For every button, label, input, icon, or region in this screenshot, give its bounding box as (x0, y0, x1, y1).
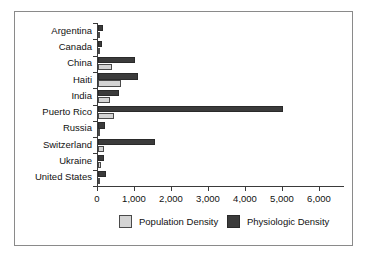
category-label-argentina: Argentina (51, 26, 92, 36)
x-axis-tick-label: 0 (94, 193, 99, 204)
bar-physiologic-density-argentina (98, 25, 103, 31)
y-axis-tick (93, 105, 97, 106)
y-axis-tick (93, 121, 97, 122)
category-label-russia: Russia (63, 123, 92, 133)
y-axis-tick (93, 137, 97, 138)
chart-figure: 01,0002,0003,0004,0005,0006,000Argentina… (14, 11, 353, 246)
bar-population-density-argentina (98, 32, 100, 38)
legend-label: Population Density (139, 216, 218, 227)
bar-population-density-ukraine (98, 162, 101, 168)
bar-population-density-russia (98, 129, 100, 135)
legend-label: Physiologic Density (247, 216, 329, 227)
category-label-india: India (71, 91, 92, 101)
category-label-canada: Canada (59, 42, 92, 52)
y-axis-tick (93, 23, 97, 24)
y-axis-tick (93, 72, 97, 73)
bar-physiologic-density-ukraine (98, 155, 104, 161)
x-axis-tick-label: 4,000 (233, 193, 257, 204)
category-label-haiti: Haiti (73, 75, 92, 85)
y-axis-tick (93, 153, 97, 154)
x-axis-tick (208, 187, 209, 191)
x-axis-tick (245, 187, 246, 191)
x-axis-tick-label: 6,000 (307, 193, 331, 204)
x-axis-tick-label: 5,000 (270, 193, 294, 204)
bar-physiologic-density-china (98, 57, 135, 63)
x-axis-tick-label: 3,000 (196, 193, 220, 204)
bar-population-density-switzerland (98, 146, 104, 152)
physiologic-density-swatch (227, 215, 240, 228)
bar-physiologic-density-russia (98, 122, 105, 128)
category-label-puerto-rico: Puerto Rico (42, 107, 92, 117)
legend-entry-physiologic-density: Physiologic Density (227, 214, 329, 228)
bar-physiologic-density-united-states (98, 171, 106, 177)
x-axis-tick (134, 187, 135, 191)
bar-physiologic-density-switzerland (98, 139, 155, 145)
category-label-united-states: United States (35, 172, 92, 182)
y-axis-tick (93, 56, 97, 57)
population-density-swatch (119, 215, 132, 228)
bar-physiologic-density-canada (98, 41, 102, 47)
bar-population-density-puerto-rico (98, 113, 114, 119)
category-label-china: China (67, 58, 92, 68)
bar-physiologic-density-india (98, 90, 119, 96)
x-axis-tick-label: 1,000 (122, 193, 146, 204)
bar-physiologic-density-haiti (98, 73, 138, 79)
bar-population-density-india (98, 97, 110, 103)
x-axis-tick (97, 187, 98, 191)
bar-population-density-canada (98, 48, 100, 54)
category-label-switzerland: Switzerland (43, 140, 92, 150)
bar-population-density-united-states (98, 178, 100, 184)
category-label-ukraine: Ukraine (59, 156, 92, 166)
bar-physiologic-density-puerto-rico (98, 106, 283, 112)
x-axis-tick-label: 2,000 (159, 193, 183, 204)
bar-population-density-china (98, 64, 112, 70)
y-axis-tick (93, 88, 97, 89)
y-axis-tick (93, 170, 97, 171)
y-axis-tick (93, 186, 97, 187)
x-axis-tick (282, 187, 283, 191)
chart-legend: Population DensityPhysiologic Density (15, 210, 354, 234)
y-axis-tick (93, 39, 97, 40)
bar-population-density-haiti (98, 80, 121, 86)
legend-entry-population-density: Population Density (119, 214, 218, 228)
x-axis-tick (171, 187, 172, 191)
x-axis-tick (319, 187, 320, 191)
